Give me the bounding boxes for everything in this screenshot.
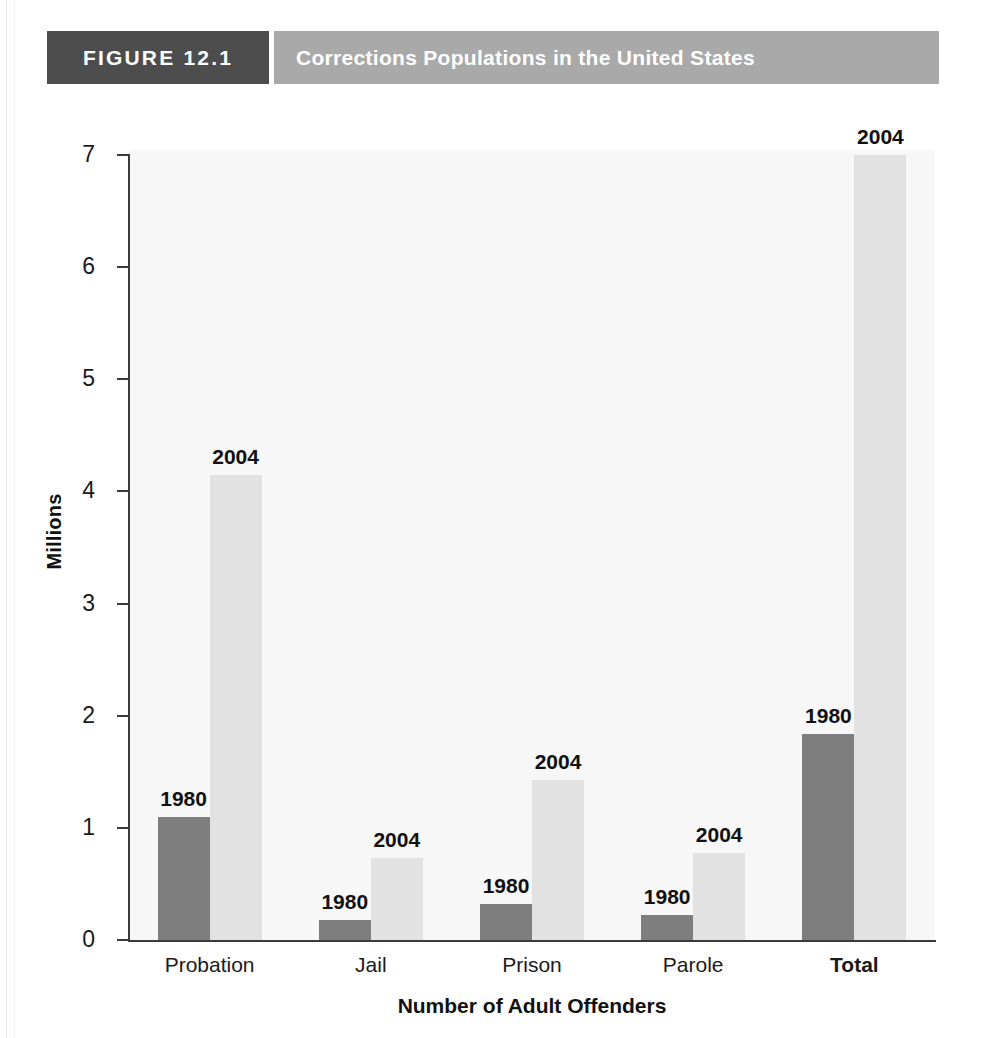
- x-axis-title: Number of Adult Offenders: [129, 994, 935, 1018]
- x-category-label-parole: Parole: [663, 953, 724, 977]
- bar-label-parole-1980: 1980: [644, 885, 691, 909]
- x-category-label-total: Total: [830, 953, 879, 977]
- bar-label-parole-2004: 2004: [696, 823, 743, 847]
- x-category-label-probation: Probation: [165, 953, 255, 977]
- bar-label-probation-1980: 1980: [160, 787, 207, 811]
- x-category-label-jail: Jail: [355, 953, 387, 977]
- bar-label-total-2004: 2004: [857, 125, 904, 149]
- x-category-label-prison: Prison: [502, 953, 562, 977]
- bar-label-prison-1980: 1980: [483, 874, 530, 898]
- bar-label-jail-2004: 2004: [373, 828, 420, 852]
- bar-chart: 76543210 Millions 19802004Probation19802…: [0, 0, 992, 1038]
- bar-value-labels: 19802004Probation19802004Jail19802004Pri…: [0, 0, 992, 1038]
- bar-label-jail-1980: 1980: [321, 890, 368, 914]
- bar-label-total-1980: 1980: [805, 704, 852, 728]
- bar-label-probation-2004: 2004: [212, 445, 259, 469]
- bar-label-prison-2004: 2004: [535, 750, 582, 774]
